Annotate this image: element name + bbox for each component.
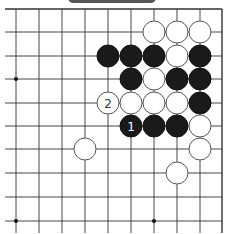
black-stone: 1 [120,115,142,137]
white-stone [143,92,165,114]
black-stone [97,45,119,67]
stones: 21 [74,21,211,184]
star-point [14,77,18,81]
move-number-label: 1 [127,120,135,134]
white-stone [120,92,142,114]
white-stone [189,21,211,43]
black-stone [189,45,211,67]
black-stone [166,68,188,90]
white-stone [189,115,211,137]
move-number-label: 2 [104,97,112,111]
white-stone [143,68,165,90]
star-point [14,219,18,223]
white-stone [166,21,188,43]
star-point [152,219,156,223]
black-stone [143,115,165,137]
white-stone [143,21,165,43]
black-stone [166,115,188,137]
go-board: 21 [0,0,227,234]
white-stone: 2 [97,92,119,114]
white-stone [189,138,211,160]
board-grid [5,9,222,233]
white-stone [166,45,188,67]
black-stone [120,45,142,67]
black-stone [189,92,211,114]
white-stone [166,92,188,114]
white-stone [74,138,96,160]
black-stone [120,68,142,90]
white-stone [166,162,188,184]
black-stone [189,68,211,90]
black-stone [143,45,165,67]
